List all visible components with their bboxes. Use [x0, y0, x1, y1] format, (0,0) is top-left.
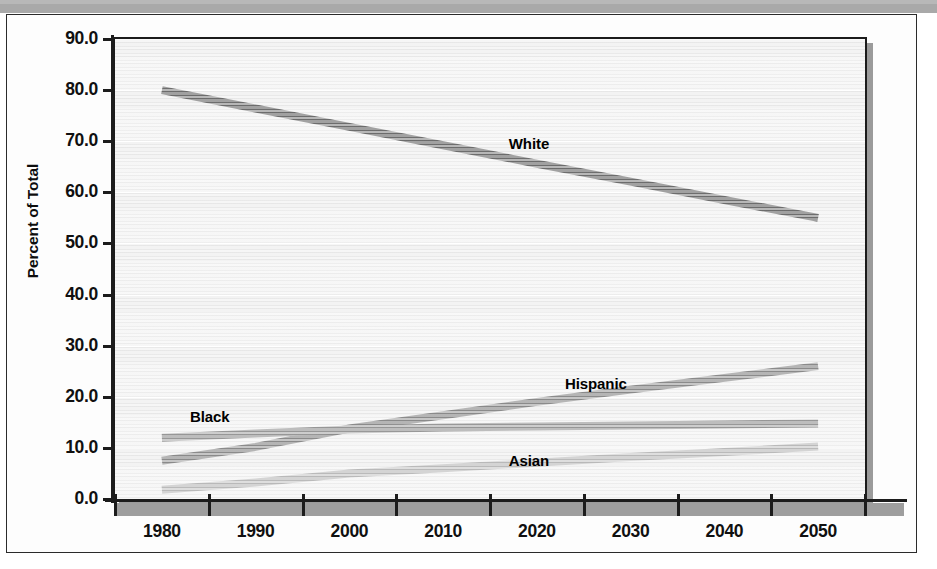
y-axis-line — [111, 35, 114, 503]
x-axis-tick-label: 2000 — [299, 521, 399, 542]
y-axis-tick — [103, 345, 112, 348]
x-axis-tick — [489, 494, 492, 516]
y-axis-tick — [103, 294, 112, 297]
x-axis-tick — [208, 494, 211, 516]
y-axis-tick-label: 10.0 — [28, 437, 98, 458]
y-axis-tick-label: 30.0 — [28, 335, 98, 356]
x-axis-tick — [583, 494, 586, 516]
x-axis-tick — [114, 494, 117, 516]
y-axis-tick-label: 90.0 — [28, 28, 98, 49]
x-axis-tick-label: 2010 — [393, 521, 493, 542]
series-label-white: White — [509, 135, 549, 152]
y-axis-tick — [103, 89, 112, 92]
series-lines — [115, 39, 865, 499]
series-label-black: Black — [190, 408, 230, 425]
x-axis-tick — [302, 494, 305, 516]
figure-canvas: White Hispanic Black Asian 90.080.070.06… — [0, 0, 937, 569]
x-axis-tick — [770, 494, 773, 516]
scan-band-highlight — [0, 0, 937, 4]
series-label-hispanic: Hispanic — [565, 375, 627, 392]
x-axis-tick — [677, 494, 680, 516]
series-line-hispanic — [162, 366, 818, 461]
y-axis-tick — [103, 396, 112, 399]
y-axis-title: Percent of Total — [24, 141, 42, 301]
series-line-asian — [162, 446, 818, 489]
y-axis-tick-label: 80.0 — [28, 79, 98, 100]
y-axis-tick — [103, 242, 112, 245]
x-axis-tick-label: 2050 — [768, 521, 868, 542]
series-line-black — [162, 423, 818, 437]
y-axis-tick — [103, 447, 112, 450]
series-line-white — [162, 90, 818, 218]
x-axis-tick-label: 2030 — [581, 521, 681, 542]
y-axis-tick — [103, 38, 112, 41]
x-axis-tick-label: 1990 — [206, 521, 306, 542]
y-axis-tick-label: 0.0 — [28, 488, 98, 509]
x-axis-line — [105, 499, 907, 502]
x-axis-tick-label: 1980 — [112, 521, 212, 542]
x-axis-tick-label: 2020 — [487, 521, 587, 542]
x-axis-tick-label: 2040 — [674, 521, 774, 542]
series-label-asian: Asian — [509, 452, 549, 469]
y-axis-tick — [103, 140, 112, 143]
y-axis-tick — [103, 191, 112, 194]
y-axis-tick-label: 20.0 — [28, 386, 98, 407]
x-axis-band — [116, 503, 904, 516]
plot-area: White Hispanic Black Asian — [113, 37, 867, 501]
x-axis-tick — [864, 494, 867, 516]
x-axis-tick — [395, 494, 398, 516]
